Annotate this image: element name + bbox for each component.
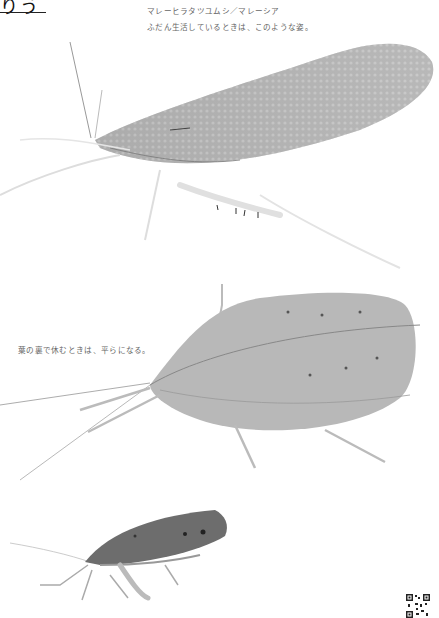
qr-code-icon[interactable]: [406, 594, 430, 618]
insect-side-view-photo: [0, 0, 439, 618]
